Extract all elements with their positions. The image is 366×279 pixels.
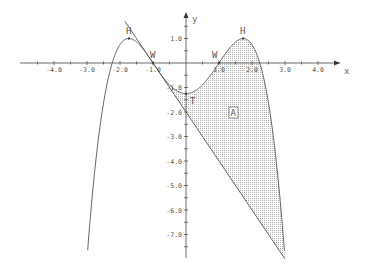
point-label-w: W bbox=[212, 50, 218, 60]
x-tick-label: -2.0 bbox=[112, 66, 128, 74]
y-tick-label: -5.0 bbox=[166, 182, 182, 190]
x-tick-label: -3.0 bbox=[79, 66, 95, 74]
point-marker bbox=[128, 37, 130, 39]
y-tick-label: 1.0 bbox=[170, 35, 182, 43]
point-marker bbox=[242, 37, 244, 39]
point-marker bbox=[218, 62, 220, 64]
axes: -4.0-3.0-2.0-1.01.02.03.04.01.0-1.0-2.0-… bbox=[20, 12, 350, 258]
point-marker bbox=[185, 92, 187, 94]
y-tick-label: -7.0 bbox=[166, 231, 182, 239]
x-tick-label: 2.0 bbox=[246, 66, 258, 74]
y-tick-label: -2.0 bbox=[166, 109, 182, 117]
x-tick-label: -4.0 bbox=[46, 66, 62, 74]
x-tick-label: -1.0 bbox=[145, 66, 161, 74]
x-axis-label: x bbox=[344, 66, 350, 76]
point-label-t: T bbox=[190, 96, 196, 106]
x-tick-label: 4.0 bbox=[312, 66, 324, 74]
point-marker bbox=[152, 62, 154, 64]
function-plot: -4.0-3.0-2.0-1.01.02.03.04.01.0-1.0-2.0-… bbox=[0, 0, 366, 279]
y-tick-label: -6.0 bbox=[166, 207, 182, 215]
y-axis-label: y bbox=[192, 14, 198, 24]
y-tick-label: -1.0 bbox=[166, 84, 182, 92]
x-tick-label: 1.0 bbox=[213, 66, 225, 74]
area-label: A bbox=[231, 108, 237, 118]
point-label-w: W bbox=[150, 50, 156, 60]
y-tick-label: -3.0 bbox=[166, 133, 182, 141]
y-axis-arrow-icon bbox=[184, 12, 189, 18]
x-tick-label: 3.0 bbox=[279, 66, 291, 74]
point-label-h: H bbox=[240, 26, 245, 36]
y-tick-label: -4.0 bbox=[166, 158, 182, 166]
x-axis-arrow-icon bbox=[334, 61, 340, 66]
point-label-h: H bbox=[126, 26, 131, 36]
